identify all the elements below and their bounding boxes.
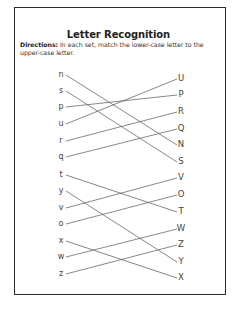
- uppercase-letter[interactable]: W: [176, 224, 186, 233]
- match-line: [66, 112, 177, 141]
- lowercase-letter[interactable]: t: [56, 171, 66, 179]
- matching-lines: [0, 0, 237, 313]
- lowercase-letter[interactable]: u: [56, 120, 66, 128]
- lowercase-letter[interactable]: s: [56, 87, 66, 95]
- lowercase-letter[interactable]: z: [56, 270, 66, 278]
- uppercase-letter[interactable]: U: [176, 74, 186, 83]
- lowercase-letter[interactable]: v: [56, 204, 66, 212]
- uppercase-letter[interactable]: P: [176, 90, 186, 99]
- lowercase-letter[interactable]: x: [56, 237, 66, 245]
- lowercase-letter[interactable]: n: [56, 71, 66, 79]
- uppercase-letter[interactable]: S: [176, 157, 186, 166]
- uppercase-letter[interactable]: Y: [176, 257, 186, 266]
- lowercase-letter[interactable]: w: [56, 253, 66, 261]
- uppercase-letter[interactable]: O: [176, 190, 186, 199]
- match-line: [66, 95, 177, 107]
- uppercase-letter[interactable]: Z: [176, 240, 186, 249]
- uppercase-letter[interactable]: R: [176, 107, 186, 116]
- uppercase-letter[interactable]: N: [176, 140, 186, 149]
- lowercase-letter[interactable]: r: [56, 137, 66, 145]
- lowercase-letter[interactable]: y: [56, 187, 66, 195]
- uppercase-letter[interactable]: X: [176, 273, 186, 282]
- match-line: [66, 178, 177, 208]
- match-line: [66, 195, 177, 224]
- match-line: [66, 175, 177, 212]
- lowercase-letter[interactable]: p: [56, 103, 66, 111]
- match-line: [66, 229, 177, 257]
- lowercase-letter[interactable]: o: [56, 220, 66, 228]
- match-line: [66, 245, 177, 274]
- uppercase-letter[interactable]: V: [176, 173, 186, 182]
- match-line: [66, 129, 177, 157]
- lowercase-letter[interactable]: q: [56, 153, 66, 161]
- uppercase-letter[interactable]: Q: [176, 124, 186, 133]
- match-line: [66, 191, 177, 262]
- uppercase-letter[interactable]: T: [176, 207, 186, 216]
